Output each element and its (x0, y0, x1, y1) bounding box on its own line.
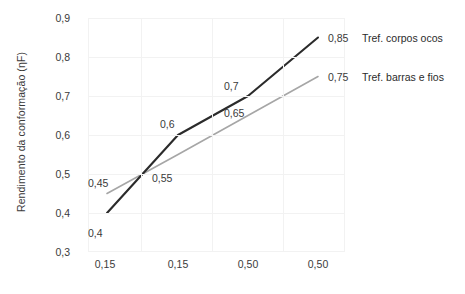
data-label-barras-e-fios-3: 0,65 (224, 107, 244, 119)
gridline-horizontal (88, 18, 345, 19)
x-tick-label-2: 0,50 (218, 258, 278, 270)
data-label-barras-e-fios-4: 0,75 (328, 71, 348, 83)
y-tick-label-2: 0,7 (30, 90, 70, 102)
y-tick-label-3: 0,6 (30, 129, 70, 141)
data-label-barras-e-fios-1: 0,45 (88, 177, 108, 189)
line-chart: Rendimento da conformação (ηF) 0,9 0,8 0… (0, 0, 465, 294)
y-tick-label-0: 0,9 (30, 12, 70, 24)
data-label-corpos-ocos-4: 0,85 (328, 32, 348, 44)
y-tick-label-4: 0,5 (30, 168, 70, 180)
gridline-vertical (141, 18, 142, 252)
gridline-horizontal (88, 96, 345, 97)
gridline-horizontal (88, 213, 345, 214)
data-label-corpos-ocos-1: 0,4 (88, 227, 103, 239)
y-tick-label-5: 0,4 (30, 207, 70, 219)
cut-off-caption (100, 287, 390, 294)
legend-item-barras-e-fios: Tref. barras e fios (362, 71, 444, 83)
x-tick-label-1: 0,15 (148, 258, 208, 270)
gridline-horizontal (88, 251, 345, 252)
x-tick-label-3: 0,50 (288, 258, 348, 270)
gridline-vertical (283, 18, 284, 252)
data-label-barras-e-fios-2: 0,55 (152, 172, 172, 184)
gridline-vertical (88, 18, 89, 252)
gridline-horizontal (88, 135, 345, 136)
legend-item-corpos-ocos: Tref. corpos ocos (362, 32, 443, 44)
data-label-corpos-ocos-3: 0,7 (224, 80, 239, 92)
gridline-vertical (212, 18, 213, 252)
gridline-horizontal (88, 57, 345, 58)
y-tick-label-1: 0,8 (30, 51, 70, 63)
data-label-corpos-ocos-2: 0,6 (160, 118, 175, 130)
y-axis-title: Rendimento da conformação (ηF) (15, 7, 27, 257)
y-tick-label-6: 0,3 (30, 246, 70, 258)
gridline-horizontal (88, 174, 345, 175)
plot-area (88, 18, 345, 252)
gridline-vertical (344, 18, 345, 252)
x-tick-label-0: 0,15 (75, 258, 135, 270)
